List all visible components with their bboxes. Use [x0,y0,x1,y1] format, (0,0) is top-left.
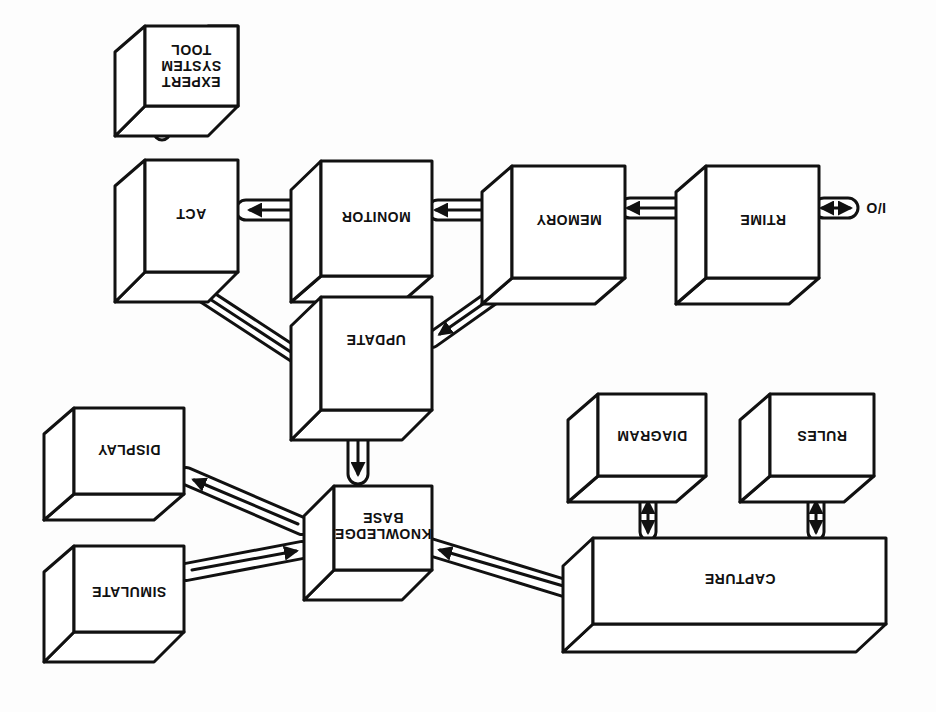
box-diagram [568,394,706,502]
pipe-kb-display [186,476,302,526]
label-memory: MEMORY [536,212,601,228]
box-monitor [291,161,432,302]
label-knowledge-base: KNOWLEDGE BASE [334,510,431,542]
label-expert-system-tool: EXPERT SYSTEM TOOL [161,42,222,90]
box-rtime [676,166,819,304]
pipe-capture-kb [430,547,584,594]
diagram-canvas [0,0,936,712]
box-act [115,160,238,302]
system-block-diagram: EXPERT SYSTEM TOOL ACT MONITOR MEMORY RT… [0,0,936,712]
box-knowledge-base [304,486,432,600]
pipe-io-rtime [814,198,858,218]
label-io: I/O [866,200,886,216]
pipe-simulate-kb [186,550,302,572]
box-capture [563,538,886,652]
box-update [291,297,432,440]
label-monitor: MONITOR [341,209,410,225]
label-act: ACT [176,206,206,222]
box-simulate [44,546,184,662]
label-rtime: RTIME [740,212,786,228]
label-diagram: DIAGRAM [617,428,687,444]
label-update: UPDATE [346,332,406,348]
label-simulate: SIMULATE [92,584,167,600]
box-display [44,408,184,520]
label-display: DISPLAY [98,442,161,458]
box-rules [740,394,874,502]
label-capture: CAPTURE [704,571,775,587]
box-memory [482,166,625,304]
label-rules: RULES [797,428,847,444]
